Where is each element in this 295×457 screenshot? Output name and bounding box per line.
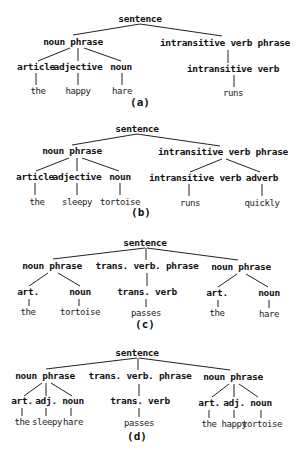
tree-leaf-word: sleepy [32,417,63,427]
tree-node-label: adjective [53,171,102,182]
tree-node-label: adverb [246,172,279,183]
tree-node-label: sentence [123,237,167,248]
tree-caption: (d) [127,430,147,443]
tree-node-label: art. [17,286,39,297]
tree-node-label: intransitive verb [187,63,280,74]
tree-leaf-word: the [201,419,216,429]
tree-leaf-word: runs [223,88,243,98]
tree-leaf-word: runs [180,198,200,208]
tree-node-label: adj. [223,397,245,408]
tree-leaf-word: quickly [244,198,280,208]
tree-node-label: art. [11,395,33,406]
tree-node-label: noun phrase [42,145,102,156]
tree-node-label: noun phrase [203,371,263,382]
tree-node-label: intransitive verb [149,172,242,183]
tree-node-label: noun [250,397,272,408]
tree-node-label: noun [110,61,132,72]
tree-leaf-word: hare [259,309,279,319]
tree-node-label: trans. verb [117,286,177,297]
tree-leaf-word: the [29,197,44,207]
tree-caption: (c) [135,318,155,331]
tree-node-label: noun [258,287,280,298]
tree-node-label: trans. verb [110,395,170,406]
tree-node-label: noun phrase [211,261,271,272]
tree-node-label: noun [62,395,84,406]
tree-node-label: adjective [54,61,103,72]
tree-node-label: noun phrase [43,36,103,47]
tree-node-label: noun phrase [15,370,75,381]
tree-node-label: sentence [118,13,162,24]
tree-leaf-word: sleepy [62,197,93,207]
tree-node-label: noun [69,286,91,297]
tree-leaf-word: happy [65,86,91,96]
tree-leaf-word: the [209,308,224,318]
tree-node-label: intransitive verb phrase [160,37,291,48]
tree-node-label: sentence [115,123,159,134]
tree-node-label: art. [198,397,220,408]
tree-node-label: trans. verb. phrase [89,370,193,381]
tree-node-label: article [17,61,56,72]
tree-leaf-word: tortoise [242,419,282,429]
tree-node-label: trans. verb. phrase [96,260,200,271]
tree-node-label: noun [109,171,131,182]
tree-leaf-word: the [14,417,29,427]
tree-caption: (a) [130,96,150,109]
tree-node-label: adj. [35,395,57,406]
tree-leaf-word: passes [124,418,154,428]
tree-node-label: noun phrase [22,260,82,271]
tree-leaf-word: the [20,307,35,317]
tree-leaf-word: passes [131,308,161,318]
tree-node-label: sentence [115,347,159,358]
tree-leaf-word: hare [63,417,83,427]
tree-node-label: intransitive verb phrase [158,146,289,157]
tree-leaf-word: the [30,86,45,96]
parse-tree-figure: sentencenoun phraseintransitive verb phr… [0,0,295,457]
tree-node-label: art. [206,287,228,298]
tree-leaf-word: hare [112,86,132,96]
tree-leaf-word: tortoise [60,307,100,317]
tree-caption: (b) [131,206,151,219]
tree-node-label: article [16,171,55,182]
